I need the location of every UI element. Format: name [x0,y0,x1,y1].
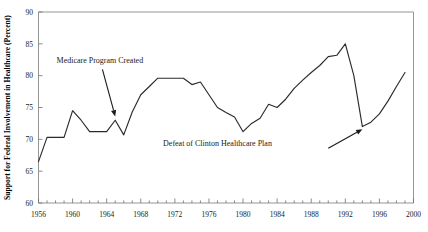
y-axis-tick-labels: 60657075808590 [26,8,34,208]
annotation-medicare: Medicare Program Created [57,56,144,116]
annotation-label: Medicare Program Created [57,56,144,65]
x-tick-label: 1968 [133,210,148,219]
annotations-group: Medicare Program CreatedDefeat of Clinto… [57,56,363,148]
x-tick-label: 1996 [372,210,387,219]
x-tick-label: 1956 [31,210,46,219]
x-tick-label: 1976 [201,210,216,219]
y-tick-label: 80 [26,71,34,80]
y-axis-title: Support for Federal Involvement in Healt… [3,15,12,200]
annotation-label: Defeat of Clinton Healthcare Plan [163,139,272,148]
y-tick-label: 85 [26,40,34,49]
annotation-clinton: Defeat of Clinton Healthcare Plan [163,129,362,148]
annotation-arrow-head [111,110,116,117]
annotation-arrow-shaft [102,69,113,110]
y-tick-label: 90 [26,8,34,17]
x-tick-label: 1992 [338,210,353,219]
y-axis-title-text: Support for Federal Involvement in Healt… [3,15,12,200]
y-tick-label: 75 [26,103,34,112]
line-chart: 60657075808590 1956196019641968197219761… [0,0,428,232]
x-tick-label: 1984 [270,210,285,219]
chart-figure: 60657075808590 1956196019641968197219761… [0,0,428,232]
x-axis-tick-labels: 1956196019641968197219761980198419881992… [31,210,421,219]
annotation-arrow-shaft [328,132,357,148]
plot-border [39,12,414,203]
x-tick-label: 1972 [167,210,182,219]
plot-frame [39,12,414,203]
x-tick-label: 2000 [406,210,421,219]
x-tick-label: 1960 [65,210,80,219]
x-tick-label: 1980 [236,210,251,219]
x-axis-ticks [39,199,414,204]
y-tick-label: 70 [26,135,34,144]
y-tick-label: 65 [26,167,34,176]
x-tick-label: 1964 [99,210,114,219]
x-tick-label: 1988 [304,210,319,219]
y-axis-ticks [39,12,43,203]
y-tick-label: 60 [26,199,34,208]
